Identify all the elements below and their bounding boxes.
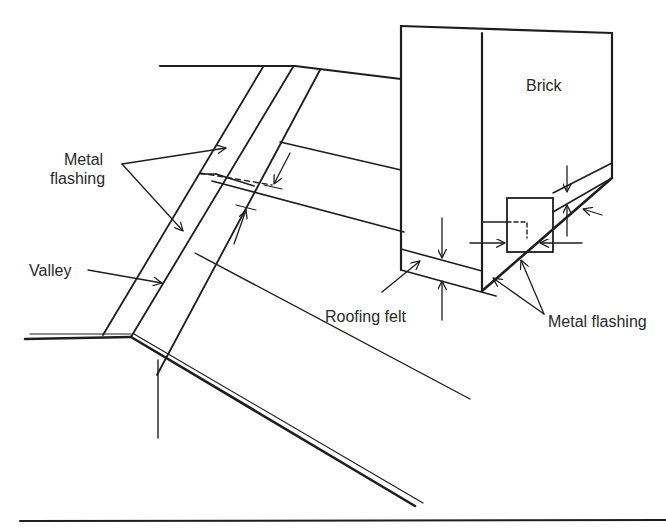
label-brick: Brick — [526, 77, 562, 95]
lower-roof-edge — [25, 334, 423, 506]
bottom-rule — [20, 520, 666, 521]
roof-flashing-diagram — [0, 0, 666, 530]
label-metal-flashing-top-1: Metal — [64, 151, 103, 169]
label-metal-flashing-top-2: flashing — [50, 170, 105, 188]
label-metal-flashing-right: Metal flashing — [548, 313, 647, 331]
label-roofing-felt: Roofing felt — [325, 308, 406, 326]
valley-strips — [103, 67, 320, 375]
label-valley: Valley — [29, 262, 71, 280]
